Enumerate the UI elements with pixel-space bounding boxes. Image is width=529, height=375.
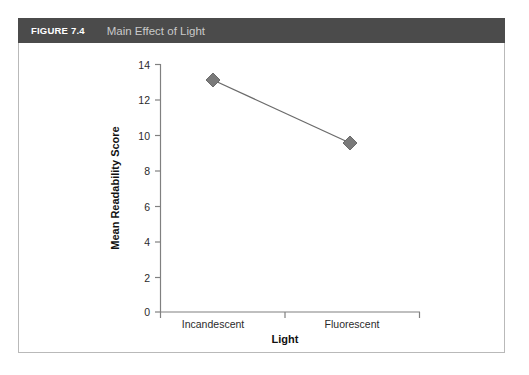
figure-caption-bar: FIGURE 7.4 Main Effect of Light	[18, 18, 505, 43]
figure-container: FIGURE 7.4 Main Effect of Light 14 12 10…	[0, 0, 529, 375]
figure-panel	[18, 43, 505, 353]
figure-title-label: Main Effect of Light	[107, 25, 205, 37]
figure-number-label: FIGURE 7.4	[31, 25, 85, 36]
